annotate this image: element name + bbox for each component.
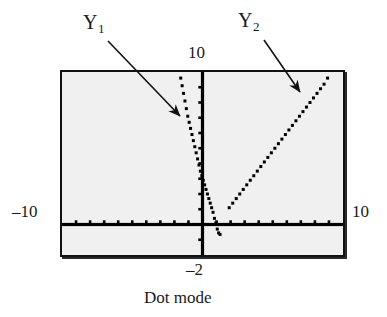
arrow-to-y1: [108, 41, 180, 116]
figure-caption: Dot mode: [144, 288, 212, 308]
callout-arrows: [0, 0, 387, 317]
figure-root: 10 –2 –10 10 Y1 Y2 Dot mode: [0, 0, 387, 317]
arrow-to-y2: [264, 40, 300, 92]
